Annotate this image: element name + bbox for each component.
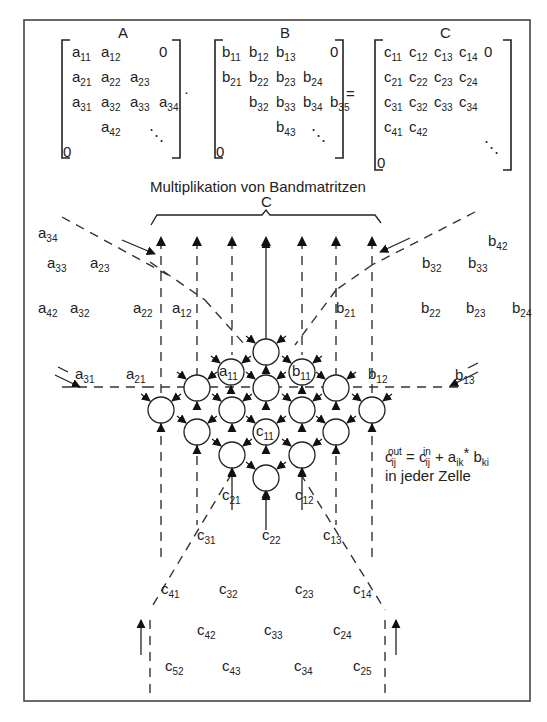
a-input-label: a31	[75, 365, 95, 385]
c-value-label: c34	[294, 657, 313, 677]
matrix-entry: a34	[159, 93, 179, 113]
a-input-label: a32	[70, 299, 90, 319]
c-value-label: c41	[161, 580, 180, 600]
matrix-entry: b11	[222, 43, 241, 63]
output-arrows	[156, 236, 377, 246]
matrix-entry: b22	[249, 68, 269, 88]
matrix-entry: b24	[303, 68, 323, 88]
matrix-entry: b43	[276, 118, 296, 138]
matrix-entry: b23	[276, 68, 296, 88]
processing-cell	[323, 375, 349, 401]
c-value-label: c31	[197, 526, 216, 546]
matrix-entry: a33	[130, 93, 150, 113]
matrix-entry: b13	[276, 43, 296, 63]
matrix-b-ellipsis: ⋱	[311, 126, 326, 143]
b-feed-lines	[295, 212, 478, 386]
matrix-entry: c22	[409, 68, 428, 88]
output-brace	[151, 210, 381, 225]
c-value-label: c22	[262, 526, 281, 546]
c-value-label: c14	[353, 580, 372, 600]
matrix-entry: a12	[101, 43, 121, 63]
processing-cell	[253, 375, 279, 401]
matrix-entry: c13	[434, 43, 453, 63]
c-value-label: c43	[222, 657, 241, 677]
matrix-entry: b32	[249, 93, 269, 113]
matrix-zero: 0	[330, 43, 338, 60]
right-bracket	[503, 40, 511, 170]
a-input-label: a34	[38, 224, 58, 244]
matrix-entry: c34	[459, 93, 478, 113]
a-input-label: a21	[126, 365, 146, 385]
processing-cell	[219, 397, 245, 423]
b-input-label: b12	[368, 365, 388, 385]
matrix-entry: a23	[130, 68, 150, 88]
left-bracket	[62, 40, 70, 158]
matrix-entry: c12	[409, 43, 428, 63]
b-input-label: b13	[455, 366, 475, 386]
c-value-label: c32	[219, 580, 238, 600]
matrix-entry: c33	[434, 93, 453, 113]
matrix-b: B b11b12b130b21b22b23b24b32b33b34b35b43 …	[215, 24, 350, 160]
b-input-label: b24	[512, 299, 532, 319]
a-input-label: a22	[133, 299, 153, 319]
matrix-c: C c11c12c13c140c21c22c23c24c31c32c33c34c…	[375, 24, 511, 171]
matrix-entry: b21	[222, 68, 242, 88]
processing-cell	[184, 419, 210, 445]
processing-cell	[253, 465, 279, 491]
matrix-entry: a32	[101, 93, 121, 113]
matrix-a: A a11a120a21a22a23a31a32a33a34a42 0 ⋱	[62, 24, 180, 160]
matrix-zero: 0	[159, 43, 167, 60]
matrix-entry: a42	[101, 118, 121, 138]
matrix-a-title: A	[118, 24, 128, 41]
matrix-entry: b33	[276, 93, 296, 113]
c-value-label: c23	[295, 580, 314, 600]
right-bracket	[172, 40, 180, 158]
processing-cell	[253, 339, 279, 365]
matrix-entry: a22	[101, 68, 121, 88]
multiply-operator: ·	[184, 83, 189, 100]
matrix-entry: a21	[72, 68, 92, 88]
c-value-label: c24	[333, 621, 352, 641]
a-input-label: a23	[90, 254, 110, 274]
equals-operator: =	[346, 85, 355, 102]
matrix-zero: 0	[484, 43, 492, 60]
b-input-label: b21	[336, 299, 356, 319]
matrix-c-title: C	[440, 24, 451, 41]
matrix-b-title: B	[280, 24, 290, 41]
processing-cell	[148, 397, 174, 423]
matrix-a-zero: 0	[63, 143, 71, 160]
c-value-label: c12	[295, 486, 314, 506]
b-input-label: b22	[421, 299, 441, 319]
a-input-label: a33	[47, 254, 67, 274]
a-input-label: a12	[172, 299, 192, 319]
c-value-label: c13	[323, 526, 342, 546]
matrix-entry: c31	[384, 93, 403, 113]
matrix-entry: a31	[72, 93, 92, 113]
c-value-label: c52	[165, 657, 184, 677]
matrix-a-ellipsis: ⋱	[149, 126, 164, 143]
formula-note: in jeder Zelle	[385, 467, 471, 484]
matrix-entry: c14	[459, 43, 478, 63]
b-input-label: b32	[422, 254, 442, 274]
matrix-entry: c23	[434, 68, 453, 88]
systolic-array-diagram: A a11a120a21a22a23a31a32a33a34a42 0 ⋱ · …	[0, 0, 547, 722]
left-bracket	[375, 40, 383, 170]
matrix-b-zero: 0	[216, 143, 224, 160]
matrix-c-zero: 0	[377, 154, 385, 171]
matrix-entry: b34	[303, 93, 323, 113]
matrix-entry: c42	[409, 118, 428, 138]
c-value-label: c33	[264, 621, 283, 641]
brace-label: C	[261, 193, 272, 210]
cell-formula: cijout = cijin + aik* bki in jeder Zelle	[385, 444, 489, 484]
b-input-label: b42	[488, 232, 508, 252]
matrix-entry: a11	[72, 43, 91, 63]
matrix-c-ellipsis: ⋱	[484, 138, 499, 155]
processing-cells	[141, 336, 392, 500]
matrix-entry: c24	[459, 68, 478, 88]
processing-cell	[184, 375, 210, 401]
processing-cell	[289, 397, 315, 423]
matrix-entry: c32	[409, 93, 428, 113]
b-input-label: b23	[466, 299, 486, 319]
matrix-entry: c41	[384, 118, 403, 138]
matrix-entry: c21	[384, 68, 403, 88]
